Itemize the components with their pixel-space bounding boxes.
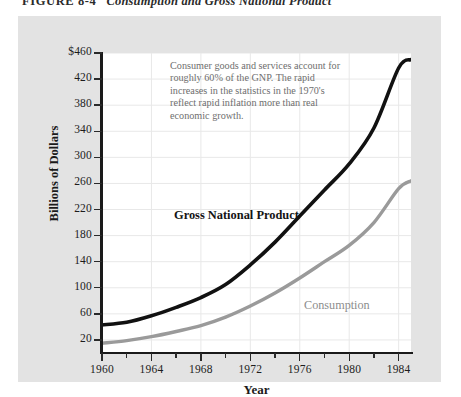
- x-axis-title: Year: [102, 382, 411, 397]
- x-tick-mark-major: [398, 353, 399, 361]
- y-tick-mark: [94, 287, 102, 288]
- x-tick-mark-major: [250, 353, 251, 361]
- x-tick-label: 1984: [369, 363, 429, 375]
- y-tick-mark: [94, 131, 102, 132]
- y-tick-mark: [94, 339, 102, 340]
- y-tick-mark: [94, 209, 102, 210]
- y-tick-mark: [94, 157, 102, 158]
- y-tick-mark: [94, 261, 102, 262]
- series-label-consumption: Consumption: [304, 298, 370, 313]
- y-tick-label: $460: [42, 45, 92, 57]
- x-tick-mark-major: [349, 353, 350, 361]
- y-tick-label: 20: [42, 332, 92, 344]
- y-tick-mark: [94, 183, 102, 184]
- y-tick-mark: [94, 104, 102, 105]
- y-tick-mark: [94, 235, 102, 236]
- x-tick-mark-minor: [373, 353, 374, 358]
- chart-panel: 2060100140180220260300340380420$460 1960…: [18, 16, 441, 382]
- x-tick-mark-major: [151, 353, 152, 361]
- y-axis-title: Billions of Dollars: [47, 94, 62, 254]
- y-tick-label: 140: [42, 254, 92, 266]
- y-tick-label: 60: [42, 306, 92, 318]
- figure-title: Consumption and Gross National Product: [106, 0, 331, 8]
- figure-caption: FIGURE 8-4Consumption and Gross National…: [0, 0, 461, 14]
- y-tick-label: 420: [42, 71, 92, 83]
- series-label-gnp: Gross National Product: [174, 208, 299, 223]
- x-tick-mark-major: [200, 353, 201, 361]
- y-tick-mark: [94, 78, 102, 79]
- figure-number: FIGURE 8-4: [22, 0, 96, 8]
- y-tick-label: 100: [42, 280, 92, 292]
- x-tick-mark-minor: [175, 353, 176, 358]
- y-tick-mark: [94, 52, 102, 53]
- y-tick-mark: [94, 313, 102, 314]
- x-tick-mark-major: [101, 353, 102, 361]
- x-tick-mark-minor: [225, 353, 226, 358]
- x-tick-mark-minor: [274, 353, 275, 358]
- chart-annotation: Consumer goods and services account for …: [170, 60, 345, 122]
- x-tick-mark-minor: [324, 353, 325, 358]
- x-tick-mark-major: [299, 353, 300, 361]
- x-axis-line: [100, 352, 413, 354]
- x-tick-mark-minor: [126, 353, 127, 358]
- y-axis-line: [100, 52, 103, 354]
- figure-root: FIGURE 8-4Consumption and Gross National…: [0, 0, 461, 397]
